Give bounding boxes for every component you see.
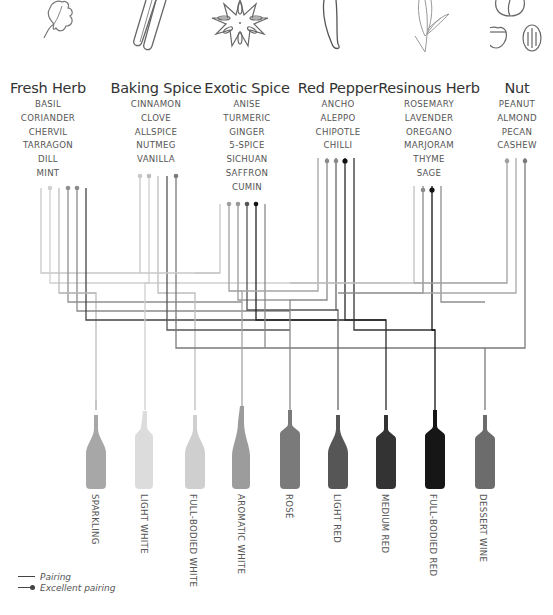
wine-label-rose: ROSÉ bbox=[284, 494, 294, 519]
bottle-dessert-wine bbox=[475, 415, 495, 489]
line-dot-icon bbox=[18, 584, 35, 591]
bottle-aromatic-white bbox=[232, 406, 250, 489]
wine-label-light-white: LIGHT WHITE bbox=[139, 494, 149, 554]
legend-excellent: Excellent pairing bbox=[18, 582, 115, 593]
bottle-full-bodied-red bbox=[425, 410, 445, 489]
bottle-medium-red bbox=[376, 415, 396, 489]
bottle-light-red bbox=[328, 415, 348, 489]
bottle-light-white bbox=[135, 411, 153, 489]
wine-label-full-bodied-red: FULL-BODIED RED bbox=[428, 494, 438, 576]
legend: Pairing Excellent pairing bbox=[18, 571, 115, 593]
wine-label-dessert-wine: DESSERT WINE bbox=[478, 494, 488, 562]
line-icon bbox=[18, 573, 35, 580]
legend-pairing-label: Pairing bbox=[40, 572, 71, 582]
legend-pairing: Pairing bbox=[18, 571, 115, 582]
bottle-sparkling bbox=[86, 415, 106, 489]
wine-bottles bbox=[86, 406, 495, 489]
bottle-full-bodied-white bbox=[185, 415, 205, 489]
wine-label-sparkling: SPARKLING bbox=[90, 494, 100, 545]
wine-label-aromatic-white: AROMATIC WHITE bbox=[236, 494, 246, 574]
pairing-connections bbox=[0, 0, 553, 615]
legend-excellent-label: Excellent pairing bbox=[40, 583, 115, 593]
wine-label-full-bodied-white: FULL-BODIED WHITE bbox=[188, 494, 198, 587]
bottle-rose bbox=[280, 410, 300, 489]
wine-label-medium-red: MEDIUM RED bbox=[380, 494, 390, 553]
wine-label-light-red: LIGHT RED bbox=[332, 494, 342, 543]
